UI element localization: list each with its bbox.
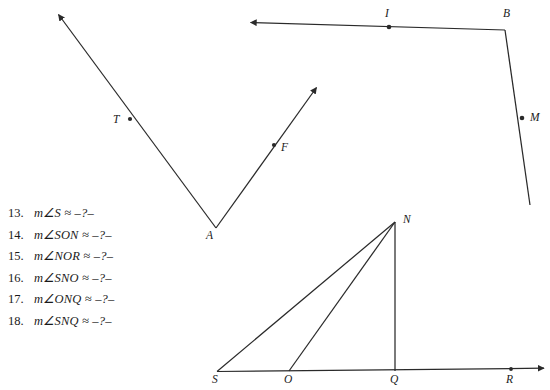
label-R: R	[506, 374, 513, 386]
label-T: T	[113, 114, 119, 126]
point-I-dot	[387, 25, 392, 30]
problem-list: 13. m∠S ≈ –?– 14. m∠SON ≈ –?– 15. m∠NOR …	[8, 205, 158, 334]
problem-expression: m∠SNQ ≈ –?–	[34, 313, 112, 329]
angle-IBM-figure	[251, 23, 531, 206]
label-Q: Q	[390, 374, 398, 386]
label-A: A	[206, 230, 213, 242]
problem-item: 17. m∠ONQ ≈ –?–	[8, 291, 158, 313]
label-N: N	[403, 214, 411, 226]
ray-BM	[505, 30, 530, 205]
ray-AT	[59, 15, 217, 229]
point-T-dot	[128, 117, 132, 121]
problem-number: 17.	[8, 292, 34, 307]
label-B: B	[503, 8, 510, 20]
problem-number: 18.	[8, 314, 34, 329]
baseline-SR-ray	[217, 368, 544, 371]
point-M-dot	[520, 116, 525, 121]
figure-SONQR	[217, 222, 544, 372]
ray-BI	[251, 23, 506, 31]
problem-number: 14.	[8, 228, 34, 243]
problem-expression: m∠SNO ≈ –?–	[34, 270, 112, 286]
worksheet-page: T F A I B M N S O Q R 13. m∠S ≈ –?– 14. …	[0, 0, 550, 390]
angle-TAF-figure	[59, 15, 317, 229]
problem-item: 18. m∠SNQ ≈ –?–	[8, 313, 158, 335]
problem-expression: m∠NOR ≈ –?–	[34, 248, 113, 264]
problem-item: 14. m∠SON ≈ –?–	[8, 227, 158, 249]
label-F: F	[281, 142, 288, 154]
label-M: M	[530, 112, 540, 124]
point-F-dot	[272, 143, 276, 147]
problem-item: 15. m∠NOR ≈ –?–	[8, 248, 158, 270]
ray-AF	[216, 88, 317, 229]
problem-number: 16.	[8, 271, 34, 286]
label-S: S	[212, 374, 218, 386]
point-R-dot	[509, 367, 513, 371]
problem-expression: m∠SON ≈ –?–	[34, 227, 112, 243]
problem-number: 13.	[8, 206, 34, 221]
problem-item: 16. m∠SNO ≈ –?–	[8, 270, 158, 292]
segment-SN	[217, 222, 395, 372]
label-I: I	[385, 8, 389, 20]
segment-ON	[289, 222, 395, 371]
problem-expression: m∠S ≈ –?–	[34, 205, 94, 221]
problem-number: 15.	[8, 249, 34, 264]
problem-expression: m∠ONQ ≈ –?–	[34, 291, 114, 307]
label-O: O	[284, 374, 292, 386]
problem-item: 13. m∠S ≈ –?–	[8, 205, 158, 227]
